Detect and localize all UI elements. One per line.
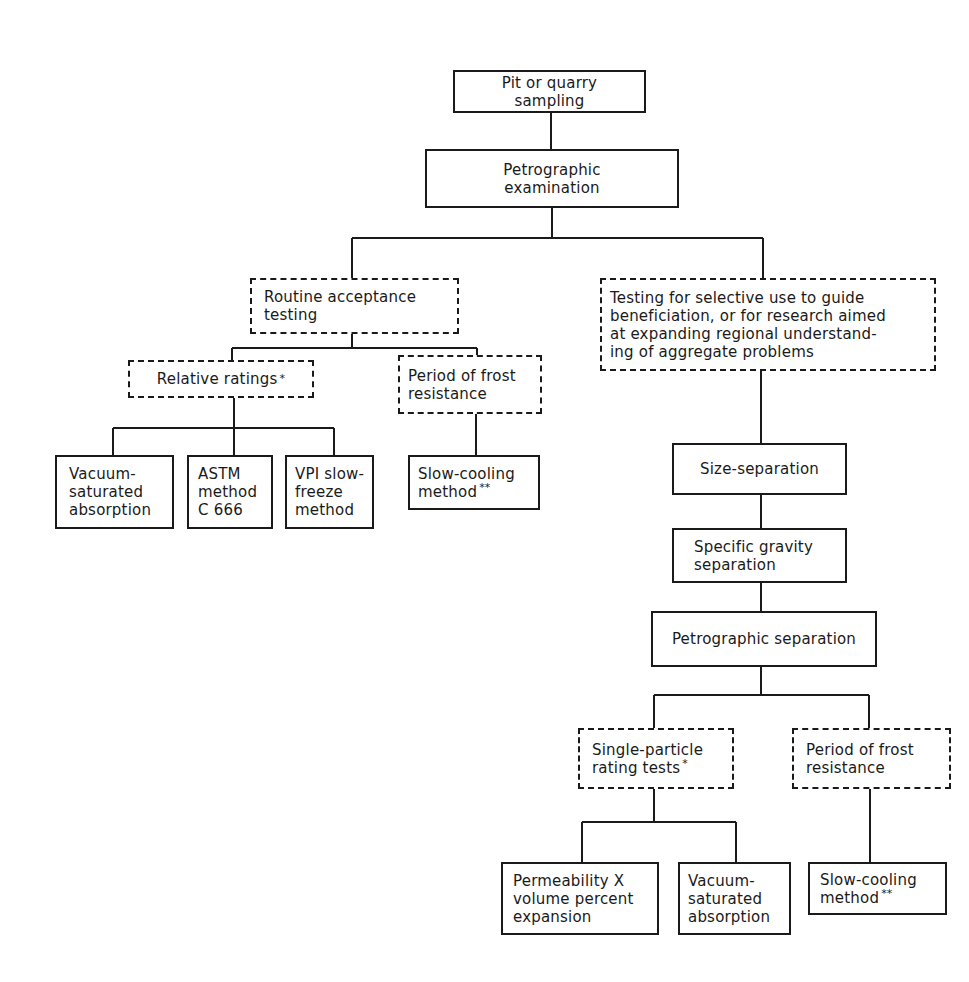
- node-selective-use-testing: Testing for selective use to guide benef…: [600, 278, 936, 371]
- node-label: Testing for selective use to guide benef…: [610, 289, 886, 361]
- node-label: Vacuum- saturated absorption: [69, 465, 151, 519]
- node-label: Petrographic separation: [672, 630, 856, 648]
- node-specific-gravity-separation: Specific gravity separation: [672, 528, 847, 583]
- node-label: ASTM method C 666: [198, 465, 257, 519]
- footnote-mark: *: [682, 757, 688, 770]
- node-single-particle-rating-tests: Single-particle rating tests*: [578, 728, 734, 789]
- node-astm-c666: ASTM method C 666: [187, 455, 273, 529]
- node-label: Relative ratings: [157, 370, 278, 388]
- label-text: Slow-cooling method: [418, 465, 515, 501]
- node-label: Period of frost resistance: [806, 741, 914, 777]
- node-period-of-frost-resistance-right: Period of frost resistance: [792, 728, 951, 789]
- node-label: Specific gravity separation: [694, 538, 813, 574]
- footnote-mark: **: [881, 887, 892, 900]
- node-label: Slow-cooling method**: [820, 871, 917, 907]
- node-label: Period of frost resistance: [408, 367, 516, 403]
- node-slow-cooling-left: Slow-cooling method**: [408, 455, 540, 510]
- node-label: Single-particle rating tests*: [592, 741, 703, 777]
- label-text: Slow-cooling method: [820, 871, 917, 907]
- node-label: Petrographic examination: [503, 161, 600, 197]
- node-petrographic-separation: Petrographic separation: [651, 611, 877, 667]
- node-label: Vacuum- saturated absorption: [688, 872, 770, 926]
- node-period-of-frost-resistance-left: Period of frost resistance: [398, 355, 542, 414]
- node-pit-sampling: Pit or quarry sampling: [453, 70, 646, 113]
- node-petrographic-examination: Petrographic examination: [425, 149, 679, 208]
- node-slow-cooling-right: Slow-cooling method**: [808, 862, 947, 915]
- footnote-mark: *: [280, 374, 286, 384]
- node-label: Pit or quarry sampling: [502, 74, 597, 110]
- node-routine-acceptance-testing: Routine acceptance testing: [250, 278, 459, 334]
- node-vacuum-saturated-absorption-left: Vacuum- saturated absorption: [55, 455, 174, 529]
- node-label: Slow-cooling method**: [418, 465, 515, 501]
- node-size-separation: Size-separation: [672, 443, 847, 495]
- node-label: VPI slow- freeze method: [295, 465, 364, 519]
- node-vacuum-saturated-absorption-right: Vacuum- saturated absorption: [678, 862, 791, 935]
- footnote-mark: **: [479, 481, 490, 494]
- node-relative-ratings: Relative ratings*: [128, 360, 314, 398]
- node-label: Routine acceptance testing: [264, 288, 416, 324]
- node-label: Permeability X volume percent expansion: [513, 872, 634, 926]
- node-permeability-expansion: Permeability X volume percent expansion: [501, 862, 659, 935]
- node-label: Size-separation: [700, 460, 819, 478]
- node-vpi-slow-freeze: VPI slow- freeze method: [285, 455, 374, 529]
- flowchart: Pit or quarry sampling Petrographic exam…: [0, 0, 969, 982]
